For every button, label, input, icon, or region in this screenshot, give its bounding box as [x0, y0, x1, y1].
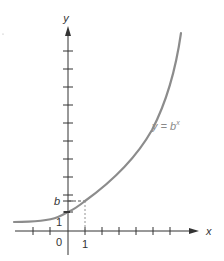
x-tick-label-1: 1 — [82, 238, 88, 250]
y-axis-label: y — [62, 12, 70, 24]
y-axis-arrow-icon — [65, 26, 71, 36]
b-label: b — [54, 195, 60, 207]
x-axis-label: x — [205, 225, 212, 237]
curve-label: y = bx — [151, 119, 180, 132]
stray-mark — [2, 33, 3, 34]
origin-label: 0 — [56, 236, 62, 248]
exponential-graph: y x 0 1 1 b y = bx — [0, 0, 224, 261]
y-intercept-label: 1 — [56, 216, 62, 228]
x-axis-arrow-icon — [189, 228, 199, 234]
